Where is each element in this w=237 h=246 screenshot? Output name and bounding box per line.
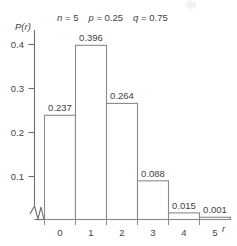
chart-title: n = 5p = 0.25q = 0.75	[57, 12, 178, 23]
bar-value-label-r2: 0.264	[105, 91, 139, 101]
param-n: n = 5	[57, 12, 78, 23]
x-tick-label-1: 1	[83, 228, 99, 238]
binomial-distribution-chart: P(r) n = 5p = 0.25q = 0.75 r 0.4 0.3 0.2…	[0, 0, 237, 246]
bar-r1	[76, 45, 107, 219]
x-tick-label-2: 2	[114, 228, 130, 238]
y-tick-label-0.1: 0.1	[2, 172, 24, 182]
param-q: q = 0.75	[133, 12, 168, 23]
x-tick-label-0: 0	[52, 228, 68, 238]
bar-series	[45, 45, 231, 219]
bar-value-label-r3: 0.088	[136, 169, 170, 179]
bar-value-label-r4: 0.015	[167, 201, 201, 211]
y-axis-label-text: P(r)	[15, 21, 31, 32]
param-p: p = 0.25	[88, 12, 123, 23]
bar-r4	[169, 213, 200, 220]
y-axis-label: P(r)	[15, 22, 31, 32]
x-tick-label-3: 3	[145, 228, 161, 238]
x-tick-label-4: 4	[176, 228, 192, 238]
bar-value-label-r0: 0.237	[43, 103, 77, 113]
bar-r5	[200, 217, 231, 219]
bar-value-label-r5: 0.001	[198, 205, 232, 215]
axis-break-zigzag	[30, 206, 44, 220]
bar-r2	[107, 103, 138, 219]
y-tick-label-0.3: 0.3	[2, 84, 24, 94]
bar-r3	[138, 181, 169, 220]
bar-r0	[45, 115, 76, 219]
x-tick-label-5: 5	[207, 228, 223, 238]
bar-value-label-r1: 0.396	[74, 33, 108, 43]
y-tick-label-0.4: 0.4	[2, 40, 24, 50]
y-tick-label-0.2: 0.2	[2, 128, 24, 138]
x-tick-marks	[45, 220, 200, 226]
y-tick-marks	[29, 45, 35, 177]
